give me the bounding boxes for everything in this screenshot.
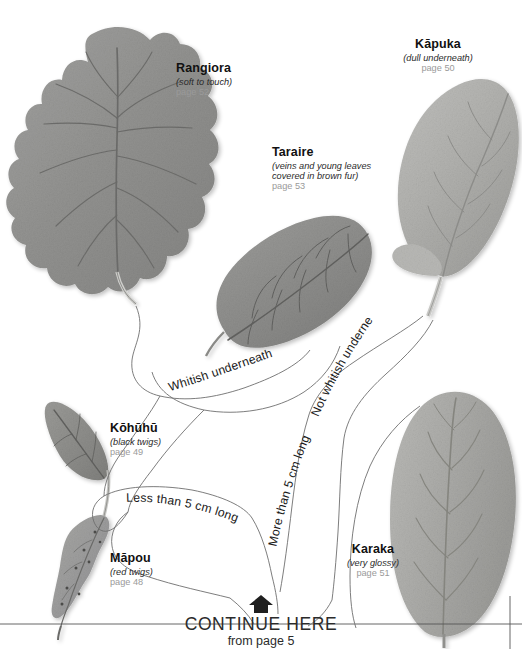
species-page-karaka: page 51 bbox=[330, 568, 416, 579]
species-label-kohuhu: Kōhūhū (black twigs) page 49 bbox=[110, 422, 161, 458]
species-note-taraire-line2: covered in brown fur) bbox=[272, 171, 371, 181]
species-note-rangiora: (soft to touch) bbox=[176, 77, 232, 87]
species-page-kohuhu: page 49 bbox=[110, 447, 161, 458]
species-name-karaka: Karaka bbox=[330, 543, 416, 557]
species-label-taraire: Taraire (veins and young leaves covered … bbox=[272, 146, 371, 192]
continue-here-title: CONTINUE HERE bbox=[0, 615, 522, 633]
species-note-kapuka: (dull underneath) bbox=[378, 53, 498, 63]
species-name-mapou: Māpou bbox=[110, 552, 153, 566]
continue-here-subtitle: from page 5 bbox=[0, 634, 522, 649]
species-page-rangiora: page 52 bbox=[176, 87, 232, 98]
species-label-karaka: Karaka (very glossy) page 51 bbox=[330, 543, 416, 579]
species-labels: Rangiora (soft to touch) page 52 Taraire… bbox=[0, 0, 522, 649]
species-note-karaka: (very glossy) bbox=[330, 558, 416, 568]
species-page-taraire: page 53 bbox=[272, 181, 371, 192]
species-note-taraire-line1: (veins and young leaves bbox=[272, 161, 371, 171]
key-page: Whitish underneath Not whitish underneat… bbox=[0, 0, 522, 649]
up-arrow-icon bbox=[248, 594, 274, 614]
species-note-mapou: (red twigs) bbox=[110, 567, 153, 577]
species-name-taraire: Taraire bbox=[272, 146, 371, 160]
species-label-rangiora: Rangiora (soft to touch) page 52 bbox=[176, 62, 232, 98]
species-label-mapou: Māpou (red twigs) page 48 bbox=[110, 552, 153, 588]
species-page-kapuka: page 50 bbox=[378, 63, 498, 74]
species-name-kapuka: Kāpuka bbox=[378, 38, 498, 52]
continue-here-block[interactable]: CONTINUE HERE from page 5 bbox=[0, 594, 522, 649]
species-name-rangiora: Rangiora bbox=[176, 62, 232, 76]
species-label-kapuka: Kāpuka (dull underneath) page 50 bbox=[378, 38, 498, 74]
species-name-kohuhu: Kōhūhū bbox=[110, 422, 161, 436]
species-note-kohuhu: (black twigs) bbox=[110, 437, 161, 447]
species-page-mapou: page 48 bbox=[110, 577, 153, 588]
